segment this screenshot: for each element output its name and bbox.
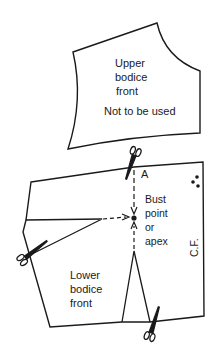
bust-label-1: Bust [145,193,166,205]
bodice-pattern-diagram: Upper bodice front Not to be used A Bust… [0,0,213,349]
bust-label-2: point [145,207,168,219]
bust-point-dot [131,215,136,220]
bust-label-3: or [145,221,155,233]
bust-label-4: apex [145,235,169,247]
upper-title-2: bodice [115,71,147,83]
waist-dart [122,251,150,322]
scissors-icon [16,238,51,267]
dashed-line-from-dart [103,217,126,219]
fold-dots-icon [191,175,200,188]
lower-title-3: front [70,297,92,309]
arrow-down [131,207,137,214]
lower-title-1: Lower [70,269,100,281]
scissors-icon [143,306,165,343]
upper-title-3: front [116,85,138,97]
point-a-label: A [141,168,149,180]
upper-note: Not to be used [104,105,176,117]
upper-title-1: Upper [115,57,145,69]
scissors-icon [120,146,142,181]
lower-title-2: bodice [70,283,102,295]
centre-front-label: C.F. [188,238,200,257]
